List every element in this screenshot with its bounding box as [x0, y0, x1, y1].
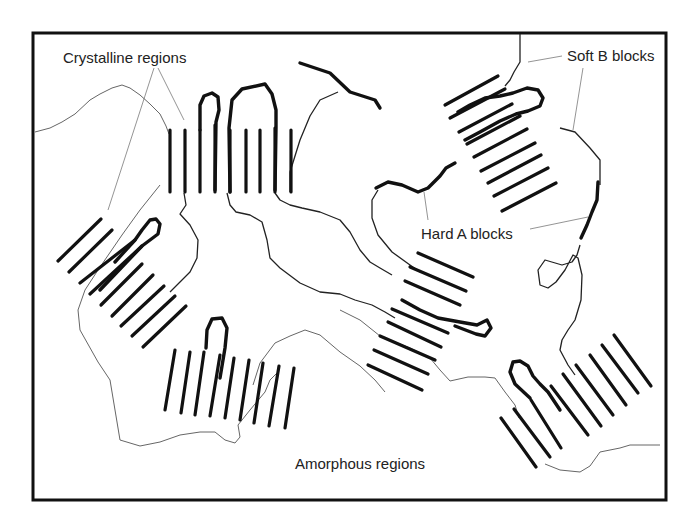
diagram-frame	[33, 33, 666, 500]
crystalline-domain-left	[58, 219, 186, 347]
block-copolymer-diagram: Crystalline regions Soft B blocks Hard A…	[0, 0, 693, 531]
label-hard-a-blocks: Hard A blocks	[421, 225, 513, 242]
label-crystalline-regions: Crystalline regions	[63, 49, 186, 66]
crystalline-domain-bottom-right	[501, 335, 651, 467]
label-soft-b-blocks: Soft B blocks	[567, 47, 655, 64]
crystalline-domain-top	[170, 125, 291, 192]
label-amorphous-regions: Amorphous regions	[295, 455, 425, 472]
crystalline-domain-bottom-left	[165, 350, 294, 428]
